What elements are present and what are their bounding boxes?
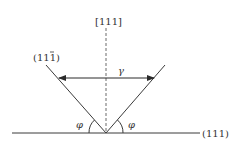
direction-111-label: [111] <box>95 16 122 27</box>
phi-right-label: φ <box>128 119 135 130</box>
crystal-plane-diagram: [111] (111) (111) γ φ φ <box>0 0 237 148</box>
phi-left-arc <box>89 120 95 133</box>
phi-left-label: φ <box>76 119 83 130</box>
phi-right-arc <box>118 120 124 133</box>
plane-left-label: (111) <box>33 52 60 63</box>
plane-111-label: (111) <box>202 128 229 139</box>
plane-right-inclined-line <box>106 65 165 133</box>
gamma-label: γ <box>118 65 124 76</box>
